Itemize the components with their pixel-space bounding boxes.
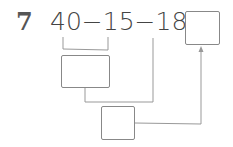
connector-lines: [0, 0, 233, 147]
step1-connector-line: [85, 38, 153, 102]
step2-connector-line: [135, 48, 201, 124]
bracket-line: [63, 37, 108, 50]
arrow-head-icon: [199, 46, 204, 52]
